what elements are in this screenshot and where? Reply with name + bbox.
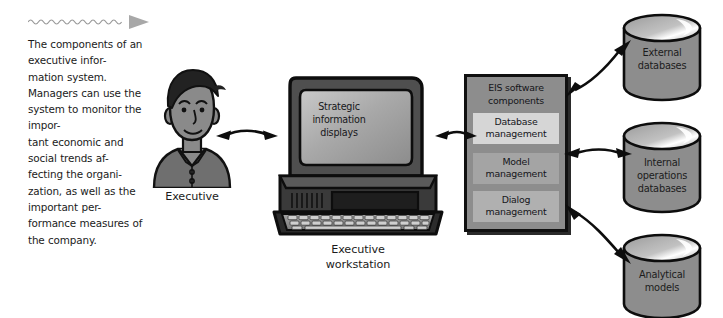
eis-component-dialog-management: Dialog management [473,191,559,222]
eis-software-components-box: EIS software components Database managem… [464,74,568,232]
eis-box-title: EIS software components [467,82,565,107]
figure-caption: The components of an executive infor- ma… [28,36,146,248]
executive-label: Executive [148,190,236,205]
eis-to-external-databases-arrow [562,36,634,102]
analytical-models-label: Analytical models [620,268,704,294]
workstation-label: Executive workstation [288,243,428,272]
eis-component-model-management: Model management [473,153,559,184]
figure-caption-text: The components of an executive infor- ma… [28,36,146,248]
wavy-line-arrow-icon [28,14,152,30]
desktop-computer-icon [272,72,444,240]
executive-to-workstation-arrow [214,118,280,154]
eis-to-analytical-models-arrow [562,198,634,270]
workstation-to-eis-arrow [434,118,478,154]
eis-component-database-management: Database management [473,113,559,144]
eis-to-internal-operations-databases-arrow [562,138,634,170]
workstation-screen-text: Strategic information displays [303,100,375,139]
figure-canvas: The components of an executive infor- ma… [0,0,723,318]
